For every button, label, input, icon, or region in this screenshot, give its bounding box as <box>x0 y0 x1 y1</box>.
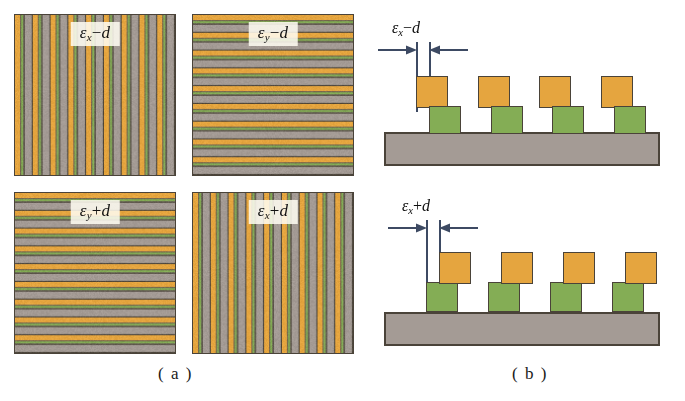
panel-label-epsilon-y-minus-d: εy−d <box>249 22 298 46</box>
panel-label-epsilon-x-minus-d: εx−d <box>71 22 120 46</box>
dimension-arrow-icon <box>372 42 492 58</box>
orange-block <box>478 76 510 108</box>
panel-label-epsilon-y-plus-d: εy+d <box>71 200 120 224</box>
figure-container: εx−d εy−d εy+d εx+d εx−d <box>0 0 685 401</box>
substrate-bar <box>384 312 660 346</box>
label-operator: − <box>270 23 280 42</box>
cross-section-epsilon-x-minus-d: εx−d <box>372 12 672 184</box>
substrate-bar <box>384 132 660 166</box>
part-b-group: εx−d <box>372 10 672 360</box>
dimension-label-epsilon-x-plus-d: εx+d <box>402 198 430 216</box>
orange-block <box>563 252 595 284</box>
grating-panel-top-left: εx−d <box>14 14 176 176</box>
panel-label-epsilon-x-plus-d: εx+d <box>249 200 298 224</box>
green-block <box>552 106 584 134</box>
dimension-arrow-icon <box>382 220 502 236</box>
orange-block <box>416 76 448 108</box>
grating-panel-bottom-left: εy+d <box>14 192 176 354</box>
green-block <box>614 106 646 134</box>
orange-block <box>501 252 533 284</box>
green-block <box>612 282 644 312</box>
grating-panel-top-right: εy−d <box>192 14 354 176</box>
label-operator: + <box>270 201 280 220</box>
orange-block <box>601 76 633 108</box>
cross-section-epsilon-x-plus-d: εx+d <box>372 192 672 364</box>
orange-block <box>625 252 657 284</box>
green-block <box>550 282 582 312</box>
green-block <box>491 106 523 134</box>
grating-panel-bottom-right: εx+d <box>192 192 354 354</box>
caption-b: ( b ) <box>512 364 548 384</box>
dimension-label-epsilon-x-minus-d: εx−d <box>392 20 420 38</box>
caption-a: ( a ) <box>158 364 193 384</box>
green-block <box>488 282 520 312</box>
green-block <box>426 282 458 312</box>
orange-block <box>539 76 571 108</box>
label-operator: + <box>92 201 102 220</box>
label-operator: − <box>92 23 102 42</box>
green-block <box>429 106 461 134</box>
part-a-group: εx−d εy−d εy+d εx+d <box>14 14 354 354</box>
orange-block <box>439 252 471 284</box>
